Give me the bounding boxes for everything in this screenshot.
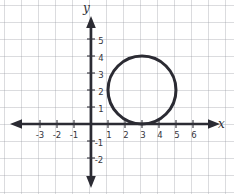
x-tick-label-2: 2 <box>123 130 128 140</box>
x-axis <box>10 119 220 129</box>
x-tick-label-6: 6 <box>191 130 196 140</box>
x-tick-label-4: 4 <box>157 130 162 140</box>
x-axis-label: x <box>218 117 225 131</box>
y-axis-top-arrowhead <box>86 16 96 28</box>
plot-canvas <box>0 0 234 194</box>
y-axis-label: y <box>83 1 90 15</box>
y-tick-label--1: -1 <box>95 138 103 148</box>
y-tick-label-4: 4 <box>98 53 103 63</box>
y-axis-bottom-arrowhead <box>86 176 96 188</box>
y-tick-label-2: 2 <box>98 87 103 97</box>
x-tick-label-1: 1 <box>106 130 111 140</box>
x-tick-label-3: 3 <box>140 130 145 140</box>
x-axis-left-arrowhead <box>10 119 22 129</box>
y-tick-label-5: 5 <box>98 36 103 46</box>
x-tick-label-5: 5 <box>174 130 179 140</box>
y-tick-label-3: 3 <box>98 70 103 80</box>
x-tick-label--3: -3 <box>36 130 44 140</box>
plotted-circle <box>108 56 176 124</box>
y-tick-label--2: -2 <box>95 155 103 165</box>
y-tick-label-1: 1 <box>98 104 103 114</box>
coordinate-plane-figure: y x -3 -2 -1 1 2 3 4 5 6 5 4 3 2 1 -1 -2 <box>0 0 234 194</box>
x-tick-label--2: -2 <box>53 130 61 140</box>
x-tick-label--1: -1 <box>70 130 78 140</box>
